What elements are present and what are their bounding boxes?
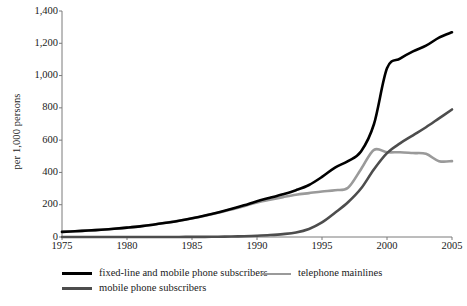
y-axis-tick-labels: 02004006008001,0001,2001,400	[14, 0, 58, 250]
series-line	[62, 149, 452, 232]
data-series-lines	[62, 32, 452, 237]
y-tick-label: 1,000	[18, 70, 58, 81]
legend-label: fixed-line and mobile phone subscribers	[99, 268, 268, 279]
y-tick-label: 200	[18, 199, 58, 210]
x-tick-label: 1980	[104, 241, 150, 252]
series-line	[62, 109, 452, 237]
chart-legend: fixed-line and mobile phone subscribers …	[62, 266, 460, 300]
legend-item-telephone-mainlines: telephone mainlines	[261, 266, 382, 281]
series-line	[62, 32, 452, 232]
x-tick-label: 1975	[39, 241, 85, 252]
legend-label: mobile phone subscribers	[99, 283, 206, 294]
y-tick-label: 400	[18, 167, 58, 178]
x-tick-label: 1995	[299, 241, 345, 252]
legend-row-1: fixed-line and mobile phone subscribers …	[62, 266, 460, 281]
y-tick-label: 1,200	[18, 38, 58, 49]
y-tick-label: 800	[18, 102, 58, 113]
legend-row-2: mobile phone subscribers	[62, 281, 460, 296]
axis-tick-marks	[59, 11, 452, 240]
x-tick-label: 2000	[364, 241, 410, 252]
legend-item-mobile-phone-subscribers: mobile phone subscribers	[62, 281, 206, 296]
legend-swatch-line	[261, 273, 291, 275]
y-tick-label: 600	[18, 135, 58, 146]
y-tick-label: 1,400	[18, 6, 58, 17]
legend-swatch-line	[62, 272, 92, 275]
legend-item-fixed-line-and-mobile: fixed-line and mobile phone subscribers	[62, 266, 268, 281]
x-tick-label: 2005	[429, 241, 467, 252]
legend-swatch-line	[62, 287, 92, 290]
x-tick-label: 1990	[234, 241, 280, 252]
legend-label: telephone mainlines	[298, 268, 382, 279]
x-tick-label: 1985	[169, 241, 215, 252]
